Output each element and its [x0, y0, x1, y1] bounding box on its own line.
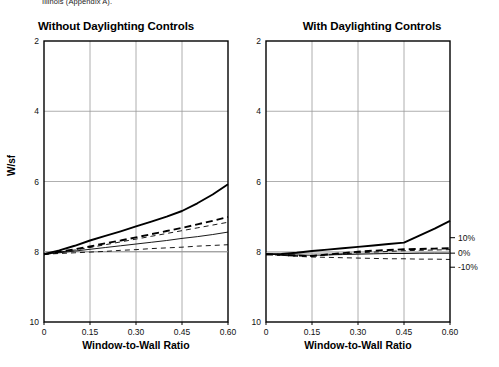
plot-area-right [250, 0, 499, 367]
x-tick-label: 0 [249, 327, 283, 337]
x-tick-label: 0.60 [211, 327, 245, 337]
y-tick-label: 2 [14, 36, 39, 46]
y-tick-label: 10 [236, 317, 261, 327]
chart-panel-without-daylighting: Without Daylighting Controls W/sf Window… [0, 0, 250, 367]
x-tick-label: 0 [27, 327, 61, 337]
y-tick-label: 8 [236, 247, 261, 257]
y-tick-label: 6 [14, 177, 39, 187]
secondary-y-tick-1: 0% [458, 248, 470, 258]
x-tick-label: 0.45 [387, 327, 421, 337]
secondary-y-tick-2: -10% [458, 262, 478, 272]
y-tick-label: 4 [236, 106, 261, 116]
y-tick-label: 8 [14, 247, 39, 257]
figure-page: Illinois (Appendix A). Without Daylighti… [0, 0, 499, 367]
x-tick-label: 0.30 [341, 327, 375, 337]
chart-panel-with-daylighting: With Daylighting Controls Window-to-Wall… [250, 0, 499, 367]
y-tick-label: 4 [14, 106, 39, 116]
x-tick-label: 0.60 [433, 327, 467, 337]
x-tick-label: 0.15 [295, 327, 329, 337]
x-tick-label: 0.30 [119, 327, 153, 337]
y-tick-label: 6 [236, 177, 261, 187]
x-tick-label: 0.45 [165, 327, 199, 337]
secondary-y-tick-0: 10% [458, 233, 475, 243]
y-tick-label: 10 [14, 317, 39, 327]
y-tick-label: 2 [236, 36, 261, 46]
x-tick-label: 0.15 [73, 327, 107, 337]
